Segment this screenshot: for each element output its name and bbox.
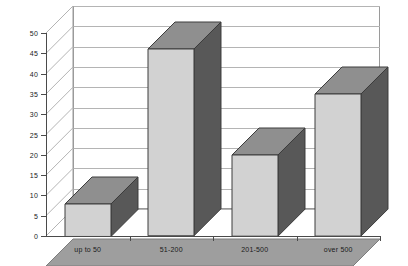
- y-tick-label-20: 20: [30, 151, 38, 158]
- y-axis-line: [46, 33, 47, 237]
- bar-3-front: [232, 155, 278, 236]
- y-tick-30: [41, 114, 46, 115]
- bar-2-front: [148, 49, 194, 236]
- y-tick-50: [41, 33, 46, 34]
- y-tick-45: [41, 53, 46, 54]
- bar-4: [315, 67, 390, 238]
- gridline-45: [73, 26, 380, 27]
- y-tick-label-30: 30: [30, 111, 38, 118]
- y-tick-20: [41, 155, 46, 156]
- gridline-50: [73, 6, 380, 7]
- bar-1: [65, 177, 140, 238]
- x-tick-label-1: up to 50: [74, 246, 101, 253]
- bar-4-front: [315, 94, 361, 236]
- y-tick-5: [41, 216, 46, 217]
- x-tick-1: [130, 236, 131, 241]
- bar-3: [232, 128, 307, 238]
- gridline-40: [73, 47, 380, 48]
- y-tick-label-25: 25: [30, 131, 38, 138]
- y-tick-label-40: 40: [30, 70, 38, 77]
- y-tick-label-35: 35: [30, 90, 38, 97]
- x-tick-2: [213, 236, 214, 241]
- bar-2-side: [194, 22, 221, 236]
- y-tick-0: [41, 236, 46, 237]
- y-tick-35: [41, 94, 46, 95]
- y-tick-40: [41, 74, 46, 75]
- x-tick-4: [380, 236, 381, 241]
- y-axis: 05101520253035404550: [0, 0, 46, 266]
- bar-4-side: [361, 67, 388, 236]
- y-tick-label-50: 50: [30, 30, 38, 37]
- y-tick-10: [41, 195, 46, 196]
- y-tick-label-0: 0: [34, 233, 38, 240]
- y-tick-15: [41, 175, 46, 176]
- bar-chart: 05101520253035404550 up to 5051-200201-5…: [0, 0, 408, 266]
- x-tick-label-3: 201-500: [241, 246, 268, 253]
- y-tick-label-15: 15: [30, 172, 38, 179]
- x-tick-3: [297, 236, 298, 241]
- y-tick-label-5: 5: [34, 212, 38, 219]
- x-tick-label-4: over 500: [324, 246, 353, 253]
- y-tick-label-45: 45: [30, 50, 38, 57]
- y-tick-25: [41, 135, 46, 136]
- bar-2: [148, 22, 223, 238]
- bar-1-front: [65, 204, 111, 236]
- x-tick-label-2: 51-200: [160, 246, 183, 253]
- y-tick-label-10: 10: [30, 192, 38, 199]
